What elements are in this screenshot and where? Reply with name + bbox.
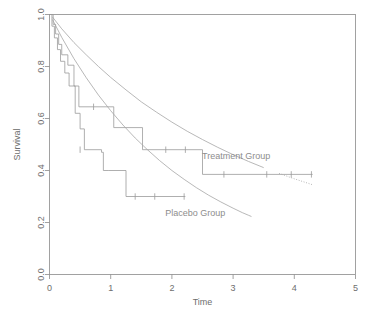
survival-plot-figure: 0123450.00.20.40.60.81.0 Treatment Group… [0,0,370,321]
x-tick-label-5: 5 [353,283,358,293]
axis-ticks [45,15,356,280]
x-tick-label-1: 1 [108,283,113,293]
y-tick-label-0: 0.0 [36,268,46,281]
y-tick-label-1: 0.2 [36,216,46,229]
x-tick-label-3: 3 [231,283,236,293]
axis-tick-labels: 0123450.00.20.40.60.81.0 [36,8,359,292]
x-tick-label-0: 0 [47,283,52,293]
chart-canvas: 0123450.00.20.40.60.81.0 Treatment Group… [0,0,370,321]
y-tick-label-4: 0.8 [36,60,46,73]
x-tick-label-2: 2 [169,283,174,293]
y-tick-label-3: 0.6 [36,112,46,125]
plot-frame [50,15,356,275]
x-axis-title: Time [193,297,213,307]
plot-border [50,15,356,275]
placebo-group-label: Placebo Group [165,208,225,218]
series-annotations: Treatment GroupPlacebo Group [165,151,270,218]
y-axis-title: Survival [12,128,22,160]
km-curve-1 [50,15,186,197]
fit-curve-2-dotted [279,173,313,184]
fit-curve-3 [53,20,252,217]
km-curve-0 [50,15,313,175]
treatment-group-label: Treatment Group [202,151,270,161]
y-tick-label-2: 0.4 [36,164,46,177]
y-tick-label-5: 1.0 [36,8,46,21]
data-series [50,15,313,217]
censoring-marks [80,104,311,200]
x-tick-label-4: 4 [292,283,297,293]
